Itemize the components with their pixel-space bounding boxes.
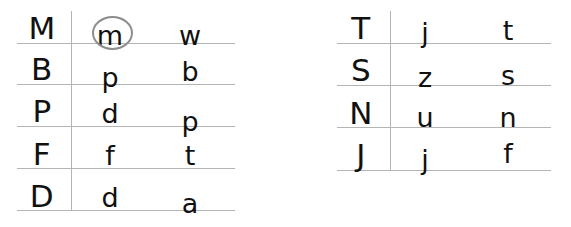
cell-lowercase-target: f bbox=[503, 140, 513, 167]
cell-uppercase: J bbox=[356, 140, 366, 171]
right-table-rules bbox=[0, 0, 571, 227]
worksheet-canvas: M m w B p b P d p F f t D d a T j t bbox=[0, 0, 571, 227]
cell-uppercase: S bbox=[351, 55, 371, 86]
column-divider bbox=[390, 11, 391, 171]
right-letter-table: T j t S z s N u n J j f bbox=[0, 0, 571, 227]
cell-lowercase-written: u bbox=[416, 104, 433, 131]
cell-lowercase-target: n bbox=[499, 104, 516, 131]
cell-uppercase: N bbox=[349, 98, 373, 129]
cell-lowercase-written: z bbox=[418, 64, 432, 91]
cell-lowercase-written: j bbox=[421, 146, 429, 173]
cell-lowercase-target: t bbox=[503, 17, 514, 44]
cell-uppercase: T bbox=[351, 13, 370, 44]
cell-lowercase-target: s bbox=[501, 62, 515, 89]
rule-line bbox=[337, 170, 551, 171]
cell-lowercase-written: j bbox=[421, 19, 429, 46]
